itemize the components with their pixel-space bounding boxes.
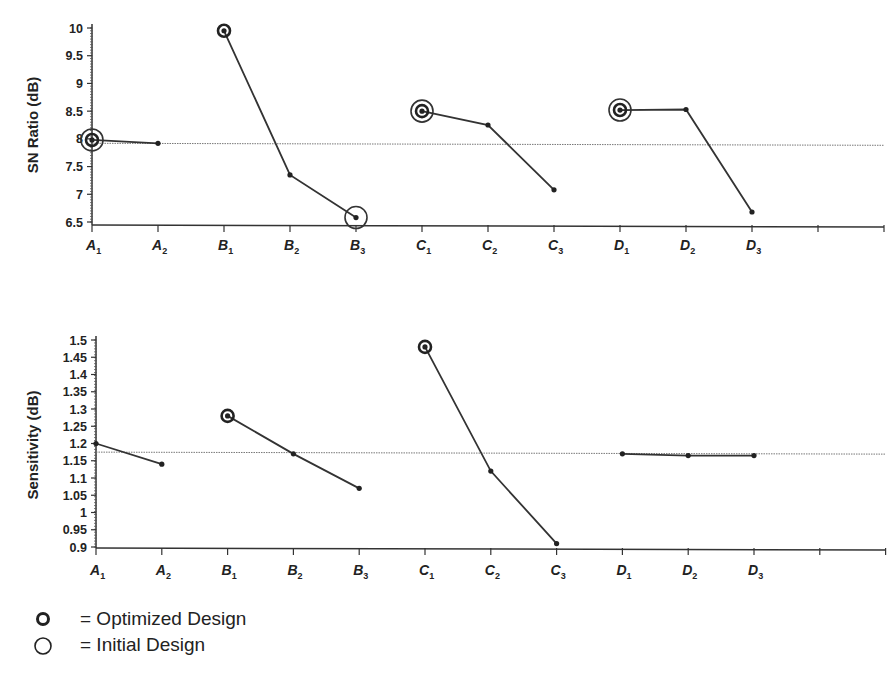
grand-mean-line [96,452,886,454]
y-tick-label: 1.45 [63,351,87,365]
legend-label-optimized: = Optimized Design [80,608,246,630]
data-point [422,344,427,349]
x-tick-label: D1 [614,237,629,256]
y-tick-label: 6.5 [66,216,83,230]
data-point [93,441,98,446]
main-effects-charts: 109.598.587.576.5SN Ratio (dB)A1A2B1B2B3… [0,0,893,673]
y-tick-label: 1.15 [63,454,87,468]
data-point [686,453,691,458]
data-point [353,215,358,220]
series-line-d [620,109,752,212]
data-point [488,469,493,474]
x-tick-label: D3 [748,562,763,581]
series-line-c [425,347,557,544]
legend: = Optimized Design = Initial Design [30,606,246,658]
data-point [485,122,490,127]
y-tick-label: 9.5 [66,49,83,63]
data-point [287,172,292,177]
data-point [620,451,625,456]
x-tick-label: C2 [482,237,497,256]
optimized-design-icon [30,607,70,631]
grand-mean-line [92,143,884,145]
y-tick-label: 7.5 [66,160,83,174]
x-tick-label: C3 [548,237,563,256]
data-point [89,137,94,142]
data-point [554,541,559,546]
y-tick-label: 7 [76,188,83,202]
y-tick-label: 1.3 [70,403,87,417]
x-tick-label: B1 [218,237,233,256]
x-tick-label: D2 [682,562,697,581]
x-tick-label: A2 [151,237,167,256]
data-point [357,486,362,491]
data-point [225,413,230,418]
sn-ratio-chart: 109.598.587.576.5SN Ratio (dB)A1A2B1B2B3… [24,22,884,257]
data-point [749,209,754,214]
legend-label-initial: = Initial Design [80,634,205,656]
legend-item-initial: = Initial Design [30,632,246,658]
x-tick-label: D2 [680,237,695,256]
y-tick-label: 0.9 [70,541,87,555]
sensitivity-chart: 1.51.451.41.351.31.251.21.151.11.0510.95… [24,334,886,582]
data-point [551,187,556,192]
legend-item-optimized: = Optimized Design [30,606,246,632]
x-tick-label: B3 [353,562,368,581]
y-tick-label: 0.95 [63,523,87,537]
y-tick-label: 8.5 [66,105,83,119]
y-tick-label: 1 [80,506,87,520]
x-tick-label: D3 [746,237,761,256]
data-point [155,141,160,146]
data-point [159,462,164,467]
initial-design-icon [30,633,70,657]
x-tick-label: C2 [485,562,500,581]
x-tick-label: B2 [287,562,302,581]
data-point [221,28,226,33]
data-point [683,107,688,112]
y-tick-label: 1.35 [63,385,87,399]
data-point [419,109,424,114]
y-tick-label: 10 [69,22,83,36]
x-tick-label: D1 [616,562,631,581]
x-tick-label: A1 [85,237,101,256]
y-axis-title: Sensitivity (dB) [24,390,41,499]
data-point [291,451,296,456]
x-tick-label: C1 [416,237,431,256]
x-tick-label: A1 [89,562,105,581]
x-tick-label: C1 [419,562,434,581]
y-tick-label: 1.2 [70,437,87,451]
x-tick-label: A2 [155,562,171,581]
y-tick-label: 1.5 [70,334,87,348]
data-point [617,107,622,112]
x-tick-label: C3 [551,562,566,581]
x-tick-label: B1 [222,562,237,581]
x-tick-label: B2 [284,237,299,256]
data-point [751,453,756,458]
x-tick-label: B3 [350,237,365,256]
y-tick-label: 1.25 [63,420,87,434]
y-axis-title: SN Ratio (dB) [24,77,41,174]
series-line-b [224,31,356,218]
y-tick-label: 1.05 [63,489,87,503]
y-tick-label: 9 [76,77,83,91]
y-tick-label: 1.4 [70,368,87,382]
series-line-a [96,444,162,465]
y-tick-label: 1.1 [70,472,87,486]
